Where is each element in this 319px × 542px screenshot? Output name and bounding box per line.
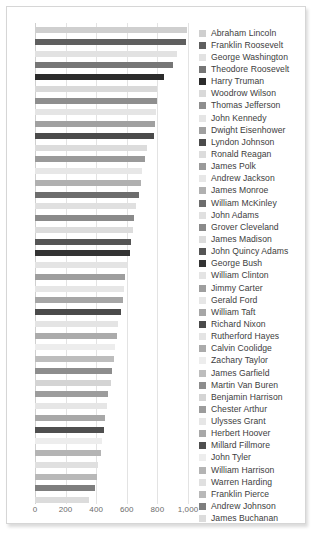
legend-item[interactable]: Theodore Roosevelt (199, 63, 303, 75)
legend-item[interactable]: Martin Van Buren (199, 379, 303, 391)
legend-item[interactable]: Andrew Johnson (199, 500, 303, 512)
legend-item[interactable]: Jimmy Carter (199, 282, 303, 294)
bar (35, 145, 147, 151)
legend-swatch-icon (199, 54, 206, 61)
bar (35, 239, 131, 245)
legend-item[interactable]: James Polk (199, 161, 303, 173)
legend-item[interactable]: James Monroe (199, 185, 303, 197)
legend-item[interactable]: Warren Harding (199, 476, 303, 488)
bar (35, 391, 108, 397)
legend-item[interactable]: Richard Nixon (199, 318, 303, 330)
legend-item[interactable]: James Madison (199, 233, 303, 245)
legend-item[interactable]: George Washington (199, 51, 303, 63)
legend-swatch-icon (199, 260, 206, 267)
legend-label: William Harrison (211, 466, 274, 475)
legend-label: George Bush (211, 259, 262, 268)
legend-item[interactable]: Lyndon Johnson (199, 136, 303, 148)
legend-item[interactable]: John Quincy Adams (199, 246, 303, 258)
legend-swatch-icon (199, 297, 206, 304)
legend-item[interactable]: Gerald Ford (199, 294, 303, 306)
bar (35, 227, 133, 233)
legend-label: James Garfield (211, 369, 270, 378)
x-tick-label: 800 (151, 505, 165, 514)
legend-label: Ulysses Grant (211, 417, 266, 426)
legend-label: James Monroe (211, 186, 268, 195)
legend-item[interactable]: John Tyler (199, 452, 303, 464)
legend-swatch-icon (199, 248, 206, 255)
legend-item[interactable]: Andrew Jackson (199, 173, 303, 185)
legend-swatch-icon (199, 467, 206, 474)
legend-label: William Clinton (211, 271, 269, 280)
legend-swatch-icon (199, 30, 206, 37)
x-tick-label: 1,000 (178, 505, 199, 514)
bar (35, 62, 173, 68)
legend-item[interactable]: George Bush (199, 258, 303, 270)
legend-item[interactable]: Ronald Reagan (199, 148, 303, 160)
legend-label: Gerald Ford (211, 296, 257, 305)
legend-swatch-icon (199, 406, 206, 413)
legend-swatch-icon (199, 151, 206, 158)
legend-label: Calvin Coolidge (211, 344, 272, 353)
legend-swatch-icon (199, 127, 206, 134)
bar (35, 462, 98, 468)
legend-item[interactable]: Benjamin Harrison (199, 391, 303, 403)
legend-swatch-icon (199, 66, 206, 73)
bar (35, 356, 114, 362)
legend-item[interactable]: Grover Cleveland (199, 221, 303, 233)
legend-label: John Tyler (211, 453, 251, 462)
legend-item[interactable]: Franklin Pierce (199, 488, 303, 500)
bar (35, 497, 89, 503)
legend-item[interactable]: Harry Truman (199, 76, 303, 88)
legend-item[interactable]: John Kennedy (199, 112, 303, 124)
bar (35, 438, 102, 444)
legend-item[interactable]: Woodrow Wilson (199, 88, 303, 100)
legend-item[interactable]: William Clinton (199, 270, 303, 282)
legend-label: Dwight Eisenhower (211, 126, 285, 135)
legend-item[interactable]: Herbert Hoover (199, 428, 303, 440)
legend-swatch-icon (199, 333, 206, 340)
legend-swatch-icon (199, 224, 206, 231)
legend-item[interactable]: Chester Arthur (199, 403, 303, 415)
bar (35, 344, 115, 350)
bar (35, 86, 157, 92)
legend-label: Andrew Jackson (211, 174, 275, 183)
x-axis: 02004006008001,000 (35, 504, 188, 520)
legend-label: Richard Nixon (211, 320, 266, 329)
legend-item[interactable]: Thomas Jefferson (199, 100, 303, 112)
gridline-1,000 (188, 23, 189, 504)
bar (35, 98, 157, 104)
legend-item[interactable]: James Garfield (199, 367, 303, 379)
legend-item[interactable]: William Harrison (199, 464, 303, 476)
legend-item[interactable]: William McKinley (199, 197, 303, 209)
legend-item[interactable]: John Adams (199, 209, 303, 221)
legend-item[interactable]: Calvin Coolidge (199, 343, 303, 355)
x-tick-label: 200 (59, 505, 73, 514)
legend-label: Harry Truman (211, 77, 264, 86)
legend-item[interactable]: Millard Fillmore (199, 440, 303, 452)
legend-item[interactable]: Ulysses Grant (199, 416, 303, 428)
legend-swatch-icon (199, 102, 206, 109)
legend-item[interactable]: Rutherford Hayes (199, 331, 303, 343)
bar (35, 215, 134, 221)
legend-swatch-icon (199, 321, 206, 328)
bar (35, 262, 127, 268)
legend-item[interactable]: Dwight Eisenhower (199, 124, 303, 136)
legend-swatch-icon (199, 42, 206, 49)
legend-label: James Madison (211, 235, 272, 244)
legend-swatch-icon (199, 285, 206, 292)
legend-item[interactable]: James Buchanan (199, 513, 303, 525)
legend-item[interactable]: Abraham Lincoln (199, 27, 303, 39)
legend-label: Thomas Jefferson (211, 101, 280, 110)
legend-swatch-icon (199, 418, 206, 425)
legend-item[interactable]: William Taft (199, 306, 303, 318)
legend-label: George Washington (211, 53, 288, 62)
legend-item[interactable]: Zachary Taylor (199, 355, 303, 367)
legend-swatch-icon (199, 212, 206, 219)
plot-area (35, 23, 188, 504)
bar (35, 51, 177, 57)
bar (35, 297, 123, 303)
bar (35, 309, 121, 315)
legend-item[interactable]: Franklin Roosevelt (199, 39, 303, 51)
bar (35, 333, 117, 339)
bar (35, 180, 141, 186)
